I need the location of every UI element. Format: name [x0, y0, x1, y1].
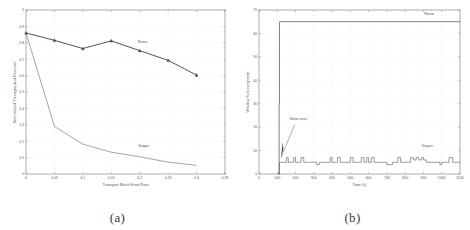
x-tick-label: 100 [274, 176, 280, 180]
y-axis-label: Window Size (segment) [245, 71, 250, 113]
y-tick-label: 50 [253, 55, 257, 59]
x-axis-label: Transport Block Error Rate [102, 182, 148, 187]
x-tick-label: 0.1 [80, 176, 85, 180]
y-tick-label: 1 [22, 8, 24, 12]
panel-a: 00.050.10.150.20.250.30.3500.10.20.30.40… [0, 0, 235, 230]
plot-b: 0100200300400500600700800900100011000102… [235, 0, 470, 196]
panel-b: 0100200300400500600700800900100011000102… [235, 0, 470, 230]
x-tick-label: 0 [258, 176, 260, 180]
y-tick-label: 20 [253, 125, 257, 129]
x-tick-label: 0.3 [194, 176, 199, 180]
panel-a-caption: (a) [0, 210, 235, 226]
y-tick-label: 70 [253, 8, 257, 12]
x-axis-label: Time (s) [352, 182, 367, 187]
y-tick-label: 30 [253, 102, 257, 106]
y-tick-label: 0.5 [19, 90, 24, 94]
x-tick-label: 0.25 [165, 176, 172, 180]
y-tick-label: 10 [253, 149, 257, 153]
x-tick-label: 0 [25, 176, 27, 180]
annotation-label: Vegas [422, 143, 433, 148]
y-tick-label: 0 [22, 172, 24, 176]
annotation-label: Slow start [290, 116, 308, 121]
x-tick-label: 900 [420, 176, 426, 180]
annotation-label: Reno [138, 39, 148, 44]
y-tick-label: 0.1 [19, 156, 24, 160]
chart-b-svg: 0100200300400500600700800900100011000102… [235, 0, 470, 196]
series-line-reno [278, 22, 460, 174]
axes-frame [259, 10, 460, 174]
y-tick-label: 60 [253, 32, 257, 36]
x-tick-label: 1100 [456, 176, 464, 180]
annotation-label: Vegas [138, 143, 149, 148]
x-tick-label: 200 [293, 176, 299, 180]
panel-b-caption: (b) [235, 210, 470, 226]
x-tick-label: 600 [366, 176, 372, 180]
y-tick-label: 0 [255, 172, 257, 176]
figure-container: 00.050.10.150.20.250.30.3500.10.20.30.40… [0, 0, 470, 230]
x-tick-label: 1000 [438, 176, 446, 180]
y-tick-label: 40 [253, 79, 257, 83]
chart-a-svg: 00.050.10.150.20.250.30.3500.10.20.30.40… [0, 0, 235, 196]
y-tick-label: 0.3 [19, 123, 24, 127]
y-tick-label: 0.8 [19, 41, 24, 45]
x-tick-label: 0.05 [51, 176, 58, 180]
plot-a: 00.050.10.150.20.250.30.3500.10.20.30.40… [0, 0, 235, 196]
x-tick-label: 500 [347, 176, 353, 180]
y-axis-label: Normalized Throughput of Receiver [12, 61, 17, 123]
x-tick-label: 300 [311, 176, 317, 180]
y-tick-label: 0.2 [19, 140, 24, 144]
x-tick-label: 700 [384, 176, 390, 180]
x-tick-label: 0.35 [222, 176, 229, 180]
x-tick-label: 400 [329, 176, 335, 180]
x-tick-label: 800 [402, 176, 408, 180]
y-tick-label: 0.6 [19, 74, 24, 78]
series-line-vegas [278, 158, 460, 174]
y-tick-label: 0.4 [19, 107, 24, 111]
slow-start-arrow-line [281, 125, 295, 158]
x-tick-label: 0.2 [137, 176, 142, 180]
x-tick-label: 0.15 [108, 176, 115, 180]
y-tick-label: 0.7 [19, 58, 24, 62]
y-tick-label: 0.9 [19, 25, 24, 29]
annotation-label: Reno [424, 11, 434, 16]
